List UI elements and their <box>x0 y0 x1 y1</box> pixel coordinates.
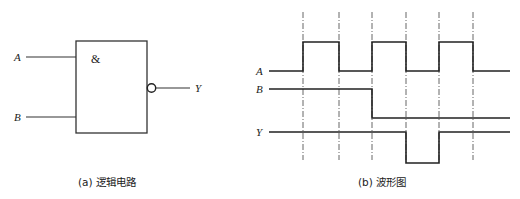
caption-b: (b) 波形图 <box>358 176 406 188</box>
figure-canvas: A B & Y (a) 逻辑电路 A B Y (b) 波形图 <box>0 0 520 199</box>
signal-label-a: A <box>255 65 263 77</box>
signal-a-trace <box>269 42 510 71</box>
time-marker-lines <box>303 12 473 160</box>
nand-gate-body <box>76 41 147 133</box>
signal-y-trace <box>269 132 510 163</box>
inversion-bubble-icon <box>147 84 155 92</box>
signal-label-y: Y <box>256 126 264 138</box>
signal-b-trace <box>269 89 510 118</box>
caption-a: (a) 逻辑电路 <box>78 176 137 188</box>
logic-circuit: A B & Y (a) 逻辑电路 <box>13 41 203 188</box>
input-label-a: A <box>13 51 21 63</box>
output-label-y: Y <box>195 82 203 94</box>
waveform-diagram: A B Y (b) 波形图 <box>255 12 510 188</box>
signal-label-b: B <box>256 83 263 95</box>
gate-symbol: & <box>91 52 101 66</box>
input-label-b: B <box>14 111 21 123</box>
